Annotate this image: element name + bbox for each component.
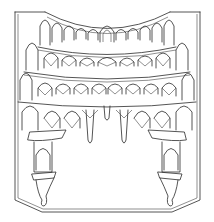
pendants xyxy=(82,106,132,143)
muqarnas-svg xyxy=(0,0,214,222)
outer-frame xyxy=(15,12,200,212)
tier-4-arches xyxy=(22,106,192,130)
right-column xyxy=(148,130,186,206)
muqarnas-drawing xyxy=(0,0,214,222)
tier-1-arches xyxy=(38,20,176,58)
left-column xyxy=(28,130,66,206)
